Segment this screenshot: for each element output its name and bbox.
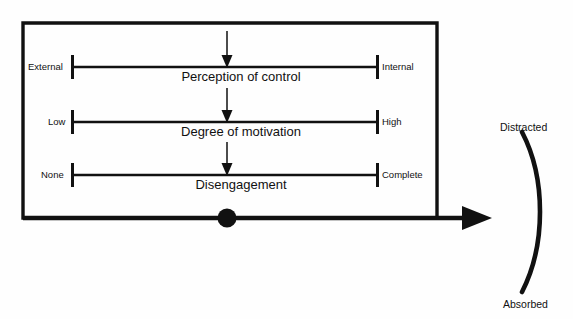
axis-label-internal: Internal: [382, 62, 414, 72]
brace-label-absorbed: Absorbed: [503, 299, 548, 310]
axis-title-degree-of-motivation: Degree of motivation: [161, 125, 321, 138]
axis-label-high: High: [382, 117, 402, 127]
axis-title-perception-of-control: Perception of control: [161, 70, 321, 83]
brace-arc: [522, 132, 540, 292]
axis-label-none: None: [41, 170, 64, 180]
outcome-arrow: [23, 206, 492, 230]
axis-title-disengagement: Disengagement: [161, 178, 321, 191]
axis-label-complete: Complete: [382, 170, 423, 180]
brace-label-distracted: Distracted: [500, 122, 547, 133]
outcome-brace: [522, 132, 540, 292]
state-node-dot: [218, 209, 237, 228]
arrowhead-icon: [462, 206, 492, 230]
axis-label-low: Low: [48, 117, 65, 127]
attention-state-diagram: External Internal Low High None Complete…: [0, 0, 573, 319]
axis-label-external: External: [28, 62, 63, 72]
diagram-canvas: [0, 0, 573, 319]
